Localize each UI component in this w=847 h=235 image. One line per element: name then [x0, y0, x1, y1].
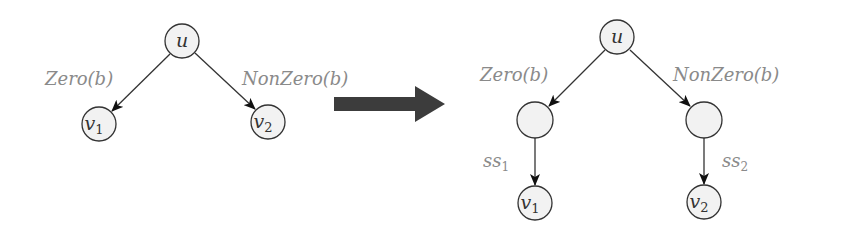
edge-label-zero: Zero(b)	[44, 68, 113, 89]
edge-zero	[112, 54, 170, 111]
edge-label-ss2: ss	[722, 150, 740, 171]
node-v1: v1	[82, 107, 116, 141]
right-graph: u v1 v2 Zero(b) NonZero(b) ss1 ss2	[479, 20, 779, 220]
node-intermediate-left	[517, 102, 553, 138]
node-subscript: 1	[95, 122, 103, 137]
node-label: u	[176, 29, 188, 51]
edge-label-zero: Zero(b)	[479, 64, 548, 85]
node-u: u	[600, 20, 634, 54]
diagram-canvas: u v1 v2 Zero(b) NonZero(b) u v1	[0, 0, 847, 235]
left-graph: u v1 v2 Zero(b) NonZero(b)	[44, 24, 348, 141]
edge-zero	[549, 50, 605, 106]
right-arrow-icon	[334, 86, 445, 122]
edge-subscript: 2	[740, 160, 748, 174]
edge-label-ss1: ss	[483, 150, 501, 171]
node-u: u	[165, 24, 199, 58]
node-subscript: 1	[531, 201, 539, 216]
node-label: v	[253, 110, 264, 132]
node-label: v	[520, 191, 531, 213]
svg-text:ss2: ss2	[722, 150, 748, 174]
node-subscript: 2	[700, 200, 708, 215]
node-v1: v1	[518, 186, 552, 220]
edge-label-nonzero: NonZero(b)	[672, 64, 779, 85]
edge-subscript: 1	[501, 160, 509, 174]
node-subscript: 2	[264, 120, 272, 135]
node-v2: v2	[687, 185, 721, 219]
node-v2: v2	[251, 105, 285, 139]
node-label: u	[611, 25, 623, 47]
edge-label-nonzero: NonZero(b)	[241, 68, 348, 89]
node-label: v	[84, 112, 95, 134]
node-intermediate-right	[686, 102, 722, 138]
svg-text:ss1: ss1	[483, 150, 509, 174]
node-label: v	[689, 190, 700, 212]
